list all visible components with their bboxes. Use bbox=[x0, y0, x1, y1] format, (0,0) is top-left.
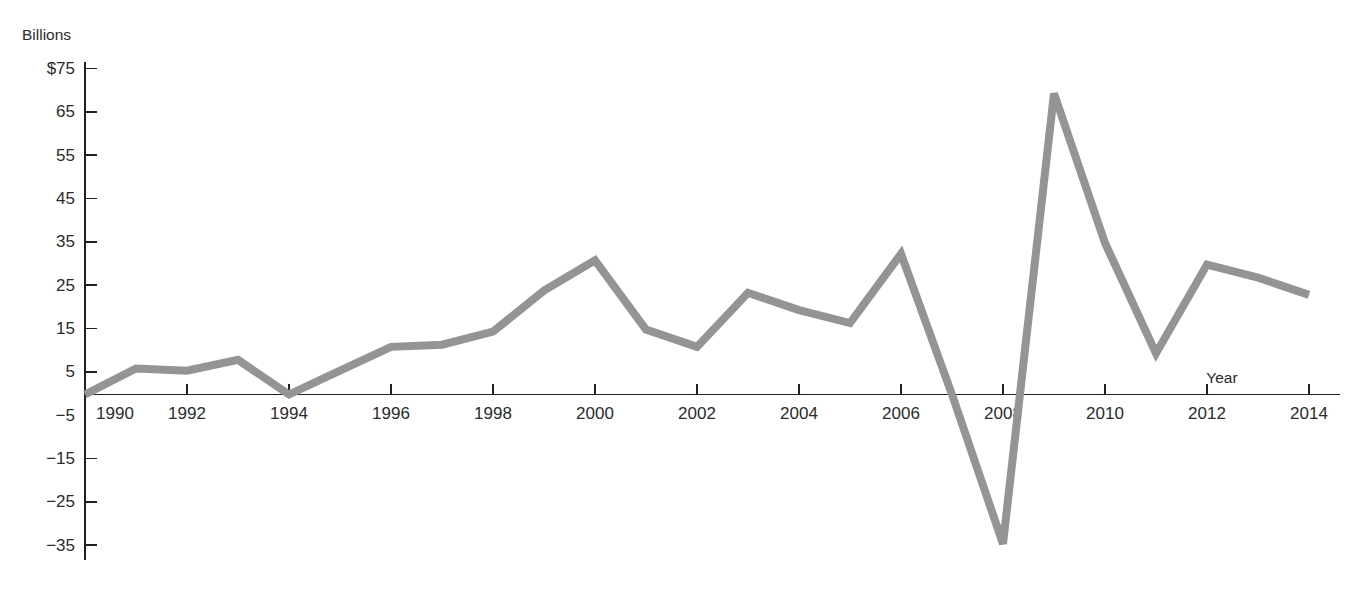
y-tick-label: −35 bbox=[46, 536, 75, 555]
x-tick-label: 1998 bbox=[474, 404, 512, 423]
y-tick-label: 55 bbox=[56, 146, 75, 165]
y-tick-1: 65 bbox=[56, 102, 97, 121]
x-tick-2004: 2004 bbox=[780, 384, 818, 423]
x-tick-2014: 2014 bbox=[1290, 384, 1328, 423]
y-tick-3: 45 bbox=[56, 189, 97, 208]
y-tick-0: $75 bbox=[47, 59, 97, 78]
x-tick-label: 2004 bbox=[780, 404, 818, 423]
x-tick-1998: 1998 bbox=[474, 384, 512, 423]
y-tick-label: 5 bbox=[66, 362, 75, 381]
y-tick-2: 55 bbox=[56, 146, 97, 165]
y-tick-label: −25 bbox=[46, 492, 75, 511]
y-tick-label: 35 bbox=[56, 232, 75, 251]
x-tick-2000: 2000 bbox=[576, 384, 614, 423]
y-tick-4: 35 bbox=[56, 232, 97, 251]
x-tick-label: 2010 bbox=[1086, 404, 1124, 423]
x-tick-label: 2006 bbox=[882, 404, 920, 423]
x-tick-label: 1990 bbox=[96, 404, 134, 423]
y-axis-ticks: $75 65 55 45 35 25 bbox=[46, 59, 97, 555]
y-tick-8: −5 bbox=[56, 406, 75, 425]
chart-canvas: Billions $75 65 55 45 35 bbox=[0, 0, 1360, 597]
y-tick-label: 65 bbox=[56, 102, 75, 121]
x-tick-2012: 2012 bbox=[1188, 384, 1226, 423]
x-tick-label: 1992 bbox=[168, 404, 206, 423]
y-tick-10: −25 bbox=[46, 492, 97, 511]
x-tick-label: 2012 bbox=[1188, 404, 1226, 423]
x-axis-ticks: 1990 1992 1994 1996 1998 2000 bbox=[85, 384, 1328, 423]
y-tick-label: −15 bbox=[46, 449, 75, 468]
y-tick-label: $75 bbox=[47, 59, 75, 78]
line-chart: Billions $75 65 55 45 35 bbox=[0, 0, 1360, 597]
y-tick-6: 15 bbox=[56, 319, 97, 338]
x-tick-2010: 2010 bbox=[1086, 384, 1124, 423]
x-tick-1990: 1990 bbox=[85, 395, 134, 424]
x-tick-2002: 2002 bbox=[678, 384, 716, 423]
x-axis-title: Year bbox=[1206, 369, 1237, 386]
x-tick-label: 2014 bbox=[1290, 404, 1328, 423]
x-tick-label: 2000 bbox=[576, 404, 614, 423]
y-tick-7: 5 bbox=[66, 362, 97, 381]
x-tick-1992: 1992 bbox=[168, 384, 206, 423]
y-tick-label: −5 bbox=[56, 406, 75, 425]
y-tick-9: −15 bbox=[46, 449, 97, 468]
x-tick-label: 1996 bbox=[372, 404, 410, 423]
y-tick-11: −35 bbox=[46, 536, 97, 555]
x-tick-2006: 2006 bbox=[882, 384, 920, 423]
y-axis-unit-label: Billions bbox=[22, 26, 71, 43]
x-tick-label: 2002 bbox=[678, 404, 716, 423]
data-series-line bbox=[85, 94, 1309, 544]
x-tick-label: 1994 bbox=[270, 404, 308, 423]
x-tick-1996: 1996 bbox=[372, 384, 410, 423]
y-tick-5: 25 bbox=[56, 276, 97, 295]
y-tick-label: 45 bbox=[56, 189, 75, 208]
y-tick-label: 15 bbox=[56, 319, 75, 338]
y-tick-label: 25 bbox=[56, 276, 75, 295]
